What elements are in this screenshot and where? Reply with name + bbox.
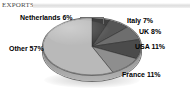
exports-pie-chart-figure: EXPORTS xyxy=(0,0,192,98)
slice-label-uk: UK 8% xyxy=(139,28,161,36)
pie-top-face xyxy=(43,18,141,75)
chart-plot-area: Netherlands 6% Italy 7% UK 8% USA 11% Fr… xyxy=(0,11,192,98)
slice-label-other: Other 57% xyxy=(9,45,44,53)
pie-slices xyxy=(43,18,141,75)
netherlands-leader-line xyxy=(80,17,104,18)
figure-header: EXPORTS xyxy=(0,0,192,11)
slice-label-netherlands: Netherlands 6% xyxy=(20,14,73,22)
netherlands-leader-drop xyxy=(103,17,104,24)
slice-label-france: France 11% xyxy=(122,71,161,79)
slice-label-italy: Italy 7% xyxy=(127,17,153,25)
header-divider xyxy=(33,3,190,8)
page-title: EXPORTS xyxy=(2,1,34,9)
slice-label-usa: USA 11% xyxy=(135,43,165,51)
